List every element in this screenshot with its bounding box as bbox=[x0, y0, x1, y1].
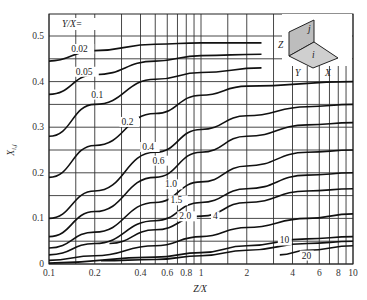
curve-label: 0.1 bbox=[91, 90, 103, 100]
curve-labels: 0.020.050.10.20.40.61.01.52.041020 bbox=[69, 44, 314, 261]
y-tick-label: 0.3 bbox=[32, 122, 44, 132]
x-tick-label: 4 bbox=[290, 268, 295, 278]
x-axis-ticks: 0.10.20.40.60.81246810 bbox=[43, 268, 358, 278]
y-tick-label: 0.1 bbox=[32, 213, 44, 223]
inset-diagram: j i Z Y X bbox=[278, 14, 352, 78]
curve-label: 1.5 bbox=[170, 195, 182, 205]
curve-label: 0.2 bbox=[122, 117, 134, 127]
curve-label: 0.05 bbox=[76, 67, 93, 77]
curve-label: 1.0 bbox=[165, 179, 177, 189]
svg-text:i: i bbox=[312, 50, 315, 60]
curve-label: 0.6 bbox=[153, 156, 165, 166]
y-axis-label: Xi,j bbox=[6, 144, 18, 157]
svg-text:Y: Y bbox=[295, 68, 302, 78]
y-tick-label: 0.5 bbox=[32, 31, 44, 41]
curve-20 bbox=[280, 246, 353, 255]
curve-label: 0.4 bbox=[142, 142, 154, 152]
x-tick-label: 8 bbox=[336, 268, 341, 278]
chart: 0.020.050.10.20.40.61.01.52.041020 0.10.… bbox=[0, 0, 367, 300]
x-tick-label: 1 bbox=[199, 268, 204, 278]
x-tick-label: 0.4 bbox=[135, 268, 147, 278]
y-tick-label: 0.2 bbox=[32, 168, 44, 178]
x-tick-label: 0.6 bbox=[161, 268, 173, 278]
x-tick-label: 0.1 bbox=[43, 268, 55, 278]
x-tick-label: 0.8 bbox=[180, 268, 192, 278]
x-tick-label: 6 bbox=[317, 268, 322, 278]
legend-title: Y/X= bbox=[62, 19, 82, 29]
x-tick-label: 0.2 bbox=[89, 268, 101, 278]
y-tick-label: 0.4 bbox=[32, 77, 44, 87]
curve-2-0 bbox=[109, 189, 353, 244]
svg-text:X: X bbox=[324, 68, 332, 78]
curve-label: 10 bbox=[280, 235, 290, 245]
x-axis-label: Z/X bbox=[193, 284, 208, 294]
curve-label: 4 bbox=[213, 211, 218, 221]
curve-label: 0.02 bbox=[71, 44, 88, 54]
x-tick-label: 2 bbox=[244, 268, 249, 278]
y-axis-ticks: 00.10.20.30.40.5 bbox=[32, 31, 44, 269]
curve-label: 2.0 bbox=[179, 211, 191, 221]
curve-label: 20 bbox=[302, 251, 312, 261]
svg-text:Z: Z bbox=[278, 40, 284, 50]
y-tick-label: 0 bbox=[39, 259, 44, 269]
x-tick-label: 10 bbox=[348, 268, 358, 278]
